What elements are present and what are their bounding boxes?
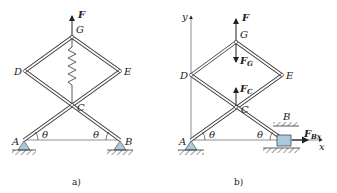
label-g: G (76, 24, 84, 35)
label-c: C (241, 104, 249, 115)
angle-label-left: θ (42, 129, 48, 140)
x-axis-label: x (319, 141, 325, 152)
spring (68, 39, 76, 105)
bar-e-g (72, 37, 120, 71)
joint-d (189, 73, 192, 76)
angle-label-left: θ (209, 129, 215, 140)
force-label-f: F (241, 12, 250, 23)
caption-a: a) (72, 177, 81, 187)
force-label-fg: FG (239, 55, 253, 68)
force-label-fc: FC (239, 83, 253, 96)
bar-d-g (25, 37, 72, 71)
label-e: E (285, 70, 294, 81)
joint-e (118, 69, 121, 72)
caption-b: b) (234, 177, 243, 187)
angle-label-right: θ (257, 129, 263, 140)
joint-e (280, 73, 283, 76)
joint-c (70, 103, 73, 106)
slider-block (277, 135, 291, 146)
mechanism-diagram: F G D E C A B θ θ a) y x (0, 0, 337, 193)
angle-label-right: θ (93, 129, 99, 140)
label-d: D (179, 70, 188, 81)
label-e: E (123, 66, 132, 77)
label-a: A (11, 136, 19, 147)
force-label-f: F (77, 9, 86, 20)
figure-a: F G D E C A B θ θ a) (11, 9, 133, 187)
bar-d-g (191, 42, 236, 75)
y-axis-label: y (181, 11, 188, 22)
slider-support-b (263, 122, 300, 153)
label-a: A (178, 136, 186, 147)
label-d: D (13, 66, 22, 77)
label-c: C (77, 102, 85, 113)
figure-b: y x F FG FC FBx (178, 11, 325, 187)
joint-d (23, 69, 26, 72)
label-b: B (282, 111, 290, 122)
force-label-fbx: FBx (303, 128, 322, 141)
label-g: G (240, 29, 248, 40)
label-b: B (124, 136, 132, 147)
